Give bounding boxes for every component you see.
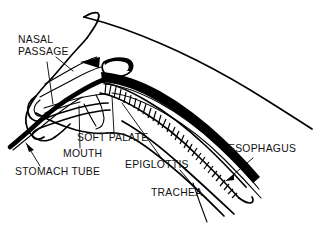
horse-head-anatomy-illustration: NASAL PASSAGE SOFT PALATE MOUTH STOMACH … bbox=[0, 0, 315, 229]
label-stomach-tube: STOMACH TUBE bbox=[15, 166, 100, 177]
label-nasal-passage-line1: NASAL bbox=[18, 34, 53, 45]
label-mouth: MOUTH bbox=[63, 148, 102, 159]
label-esophagus: ESOPHAGUS bbox=[228, 143, 296, 154]
label-trachea: TRACHEA bbox=[151, 187, 202, 198]
label-nasal-passage-line2: PASSAGE bbox=[18, 46, 69, 57]
label-epiglottis: EPIGLOTTIS bbox=[125, 159, 189, 170]
anatomy-diagram: NASAL PASSAGE SOFT PALATE MOUTH STOMACH … bbox=[0, 0, 315, 229]
label-soft-palate: SOFT PALATE bbox=[77, 132, 148, 143]
